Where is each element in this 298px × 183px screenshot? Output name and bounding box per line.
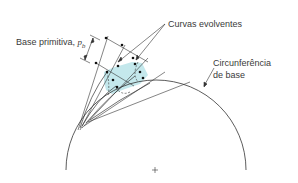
label-base-pitch-sub: b <box>82 43 85 49</box>
center-mark-icon <box>152 167 158 173</box>
involute-diagram: Curvas evolventes Base primitiva, pb Cir… <box>0 0 298 183</box>
base-circle <box>66 80 246 170</box>
label-base-pitch: Base primitiva, pb <box>16 37 85 51</box>
tooth-shading <box>104 62 148 94</box>
leader-curvas <box>118 24 165 62</box>
diagram-graphic <box>0 0 298 183</box>
label-base-circle-line1: Circunferência <box>213 58 271 68</box>
label-base-circle-line2: de base <box>213 70 245 80</box>
label-base-pitch-text: Base primitiva, <box>16 37 78 47</box>
label-involute-curves: Curvas evolventes <box>168 19 242 29</box>
